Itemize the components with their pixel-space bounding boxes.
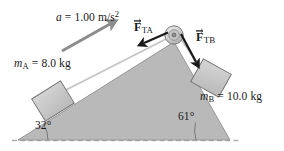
mass-b-value: 10.0 <box>227 90 248 102</box>
force-tb-symbol-wrap: F <box>196 31 203 43</box>
mass-a-equals: = <box>29 57 42 69</box>
mass-a-label: mA = 8.0 kg <box>14 58 71 71</box>
acceleration-label: a = 1.00 m/s2 <box>56 10 119 23</box>
mass-b-label: mB = 10.0 kg <box>200 91 262 104</box>
force-tb-symbol: F <box>196 30 203 44</box>
mass-a-value: 8.0 <box>41 57 56 69</box>
force-tb-label: FTB <box>196 31 215 45</box>
force-ta-symbol: F <box>134 20 141 34</box>
acceleration-arrow <box>62 24 110 51</box>
physics-figure: a = 1.00 m/s2 mA = 8.0 kg mB = 10.0 kg F… <box>0 0 284 151</box>
mass-b-unit: kg <box>247 90 262 102</box>
force-ta-subscript: TA <box>141 25 153 35</box>
force-ta-symbol-wrap: F <box>134 21 141 33</box>
acceleration-exponent: 2 <box>115 9 119 19</box>
angle-right-label: 61° <box>178 111 194 123</box>
angle-left-label: 32° <box>35 120 51 132</box>
force-ta-label: FTA <box>134 21 153 35</box>
pulley-axle <box>172 33 176 37</box>
force-tb-subscript: TB <box>203 35 215 45</box>
acceleration-equals: = <box>62 11 75 23</box>
acceleration-value: 1.00 <box>74 11 95 23</box>
mass-b-equals: = <box>214 90 227 102</box>
acceleration-unit: m/s <box>95 11 115 23</box>
mass-a-unit: kg <box>56 57 71 69</box>
